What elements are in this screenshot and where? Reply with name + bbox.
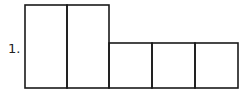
short-box-1 xyxy=(109,43,152,88)
bar-model-diagram xyxy=(0,0,248,100)
tall-box-1 xyxy=(25,5,67,88)
short-box-2 xyxy=(152,43,195,88)
short-box-3 xyxy=(195,43,238,88)
tall-box-2 xyxy=(67,5,109,88)
